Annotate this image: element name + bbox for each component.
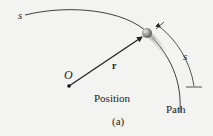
diagram-graphics <box>0 0 213 136</box>
subfigure-label: (a) <box>112 116 124 127</box>
position-caption: Position <box>94 93 130 104</box>
particle <box>142 28 152 38</box>
particle-motion-trail <box>148 34 166 57</box>
position-vector-r <box>69 37 142 86</box>
kinematics-diagram: s O r s Position Path (a) <box>0 0 213 136</box>
path-caption: Path <box>166 104 186 115</box>
path-start-s-label: s <box>18 10 22 21</box>
vector-r-label: r <box>112 61 116 71</box>
arc-length-s-label: s <box>183 51 187 62</box>
arc-length-start-tick <box>156 22 164 29</box>
origin-point <box>67 84 71 88</box>
origin-o-label: O <box>64 69 73 81</box>
